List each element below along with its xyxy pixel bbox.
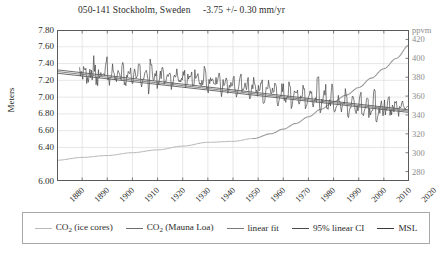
x-axis-tick: 1890 (92, 185, 111, 204)
x-axis-tick: 1880 (67, 185, 86, 204)
x-axis-tick: 2020 (419, 185, 438, 204)
chart-legend: CO2 (ice cores)CO2 (Mauna Loa)linear fit… (22, 212, 430, 244)
x-axis-tick: 1940 (218, 185, 237, 204)
x-axis-tick: 2000 (369, 185, 388, 204)
legend-swatch-icon (377, 228, 394, 229)
x-axis-tick: 1980 (318, 185, 337, 204)
legend-swatch-icon (35, 228, 52, 229)
legend-item[interactable]: CO2 (ice cores) (35, 222, 113, 234)
legend-item[interactable]: CO2 (Mauna Loa) (126, 222, 214, 234)
legend-label: linear fit (248, 223, 279, 233)
plot-area (57, 30, 409, 181)
x-axis-tick: 2010 (394, 185, 413, 204)
sea-level-chart-figure: 050-141 Stockholm, Sweden -3.75 +/- 0.30… (0, 0, 447, 258)
x-axis-tick: 1900 (117, 185, 136, 204)
legend-label: CO2 (Mauna Loa) (147, 222, 214, 234)
legend-item[interactable]: MSL (377, 223, 417, 233)
legend-label: 95% linear CI (313, 223, 365, 233)
x-axis-tick: 1990 (344, 185, 363, 204)
legend-label: MSL (398, 223, 417, 233)
legend-label: CO2 (ice cores) (56, 222, 113, 234)
legend-swatch-icon (292, 228, 309, 229)
legend-item[interactable]: 95% linear CI (292, 223, 365, 233)
legend-item[interactable]: linear fit (227, 223, 279, 233)
x-axis-tick: 1910 (142, 185, 161, 204)
series-co2-ice-cores- (57, 139, 253, 161)
legend-swatch-icon (227, 228, 244, 229)
x-axis-tick: 1970 (293, 185, 312, 204)
x-axis-tick: 1930 (193, 185, 212, 204)
x-axis-tick: 1960 (268, 185, 287, 204)
legend-swatch-icon (126, 228, 143, 229)
x-axis-tick: 1920 (168, 185, 187, 204)
x-axis-tick: 1950 (243, 185, 262, 204)
